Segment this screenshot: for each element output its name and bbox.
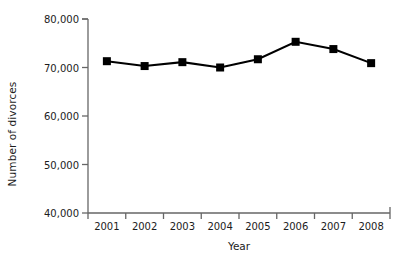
x-axis-tick-labels: 20012002200320042005200620072008 [0, 0, 411, 268]
x-axis-title: Year [88, 240, 390, 252]
divorces-line-chart: Number of divorces 40,00050,00060,00070,… [0, 0, 411, 268]
x-tick-label: 2008 [349, 221, 393, 232]
